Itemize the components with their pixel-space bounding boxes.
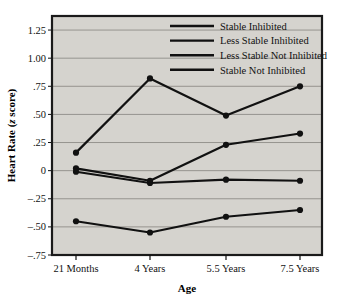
x-tick-label: 21 Months: [53, 263, 98, 274]
data-point: [223, 142, 229, 148]
x-tick-label: 7.5 Years: [281, 263, 320, 274]
data-point: [147, 75, 153, 81]
legend-label: Less Stable Not Inhibited: [220, 50, 328, 61]
data-point: [297, 207, 303, 213]
data-point: [73, 218, 79, 224]
y-tick-label: .50: [33, 109, 46, 120]
data-point: [223, 177, 229, 183]
y-tick-label: .75: [33, 81, 46, 92]
y-tick-label: –.25: [27, 193, 46, 204]
x-tick-label: 5.5 Years: [207, 263, 246, 274]
y-tick-label: 1.00: [28, 53, 46, 64]
x-axis-title: Age: [178, 282, 196, 294]
y-axis-title-text: Heart Rate (z score): [5, 88, 18, 182]
data-point: [223, 214, 229, 220]
y-tick-label: 1.25: [28, 25, 46, 36]
data-point: [73, 169, 79, 175]
chart-figure: 1.251.00.75.50.250–.25–.50–.7521 Months4…: [0, 0, 338, 296]
x-tick-label: 4 Years: [135, 263, 166, 274]
y-tick-label: –.75: [27, 250, 46, 261]
data-point: [147, 180, 153, 186]
data-point: [223, 112, 229, 118]
line-chart: 1.251.00.75.50.250–.25–.50–.7521 Months4…: [0, 0, 338, 296]
y-axis-title-pre: Heart Rate (: [5, 123, 18, 182]
y-tick-label: 0: [41, 165, 46, 176]
data-point: [297, 83, 303, 89]
data-point: [147, 229, 153, 235]
x-axis: 21 Months4 Years5.5 Years7.5 Years: [53, 255, 319, 274]
y-axis-title-post: score): [5, 88, 18, 119]
y-tick-label: –.50: [27, 221, 46, 232]
y-tick-label: .25: [33, 137, 46, 148]
data-point: [297, 178, 303, 184]
legend-label: Less Stable Inhibited: [220, 35, 309, 46]
legend-label: Stable Inhibited: [220, 21, 288, 32]
data-point: [73, 150, 79, 156]
y-axis: 1.251.00.75.50.250–.25–.50–.75: [27, 25, 52, 261]
legend-label: Stable Not Inhibited: [220, 65, 306, 76]
y-axis-title: Heart Rate (z score): [5, 88, 18, 182]
data-point: [297, 130, 303, 136]
